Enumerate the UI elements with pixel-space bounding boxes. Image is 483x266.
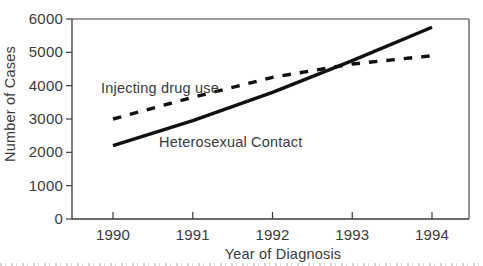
y-tick-label: 4000 — [29, 77, 63, 94]
heterosexual-contact-label: Heterosexual Contact — [159, 134, 302, 150]
plot-frame — [72, 19, 469, 219]
x-tick-label: 1991 — [176, 226, 210, 243]
chart-figure: 0100020003000400050006000199019911992199… — [0, 0, 483, 266]
y-tick-label: 6000 — [29, 10, 63, 27]
x-tick-label: 1994 — [415, 226, 449, 243]
line-chart: 0100020003000400050006000199019911992199… — [0, 0, 483, 266]
injecting-drug-use-label: Injecting drug use — [101, 80, 219, 96]
x-tick-label: 1993 — [335, 226, 369, 243]
y-tick-label: 1000 — [29, 177, 63, 194]
y-tick-label: 2000 — [29, 143, 63, 160]
x-tick-label: 1990 — [96, 226, 130, 243]
x-axis-title: Year of Diagnosis — [225, 246, 342, 262]
y-tick-label: 5000 — [29, 43, 63, 60]
y-tick-label: 0 — [54, 210, 63, 227]
y-tick-label: 3000 — [29, 110, 63, 127]
y-axis-title: Number of Cases — [2, 46, 18, 162]
x-tick-label: 1992 — [255, 226, 289, 243]
